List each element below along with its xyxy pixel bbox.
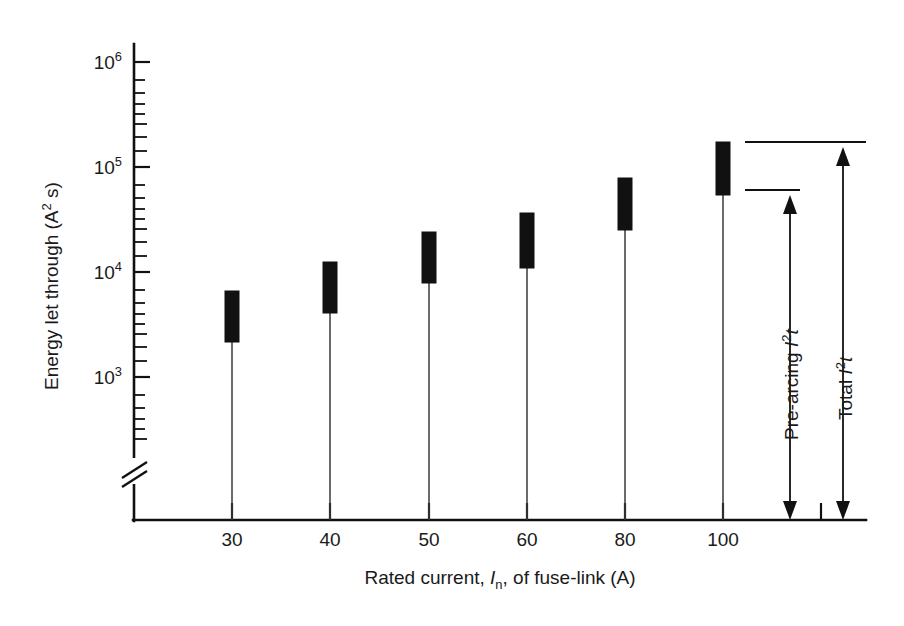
- y-tick-label-1e5: 105: [78, 158, 122, 177]
- annotation-total-superscript: 2: [833, 362, 848, 369]
- x-tick-label-60: 60: [516, 530, 537, 549]
- x-tick-label-80: 80: [614, 530, 635, 549]
- arrow-total: [836, 147, 850, 520]
- bar-band: [520, 213, 534, 268]
- bar-40: [323, 262, 337, 520]
- chart-figure: 106 105 104 103 30 40 50 60 80 100 Energ…: [0, 0, 904, 626]
- bar-100: [716, 142, 730, 520]
- y-tick-exponent: 6: [115, 49, 122, 64]
- y-tick-label-1e3: 103: [78, 368, 122, 387]
- annotation-label-total: Total I2t: [836, 357, 855, 420]
- axes-group: [133, 44, 866, 521]
- annotation-pre-arcing-prefix: Pre-arcing: [781, 347, 802, 440]
- annotation-group: [745, 142, 866, 520]
- bar-30: [225, 291, 239, 520]
- bar-band: [618, 178, 632, 230]
- x-tick-label-40: 40: [319, 530, 340, 549]
- y-axis-title: Energy let through (A2 s): [42, 182, 61, 390]
- y-axis-title-prefix: Energy let through (A: [41, 210, 62, 390]
- annotation-pre-arcing-suffix: t: [781, 329, 802, 334]
- x-axis-title: Rated current, In, of fuse-link (A): [364, 568, 635, 587]
- y-axis-ticks: [134, 62, 150, 439]
- chart-plot-area: [0, 0, 904, 626]
- annotation-pre-arcing-symbol: I: [781, 342, 802, 347]
- y-tick-label-1e6: 106: [78, 53, 122, 72]
- bar-band: [422, 232, 436, 283]
- data-series-group: [225, 142, 730, 520]
- bar-band: [716, 142, 730, 195]
- annotation-pre-arcing-superscript: 2: [779, 335, 794, 342]
- y-tick-exponent: 4: [115, 259, 122, 274]
- bar-80: [618, 178, 632, 520]
- x-tick-label-100: 100: [707, 530, 739, 549]
- x-axis-title-suffix: , of fuse-link (A): [503, 567, 636, 588]
- annotation-total-prefix: Total: [835, 375, 856, 420]
- y-axis-break-icon: [122, 458, 147, 487]
- annotation-total-symbol: I: [835, 369, 856, 374]
- bar-50: [422, 232, 436, 520]
- bar-band: [323, 262, 337, 313]
- bar-band: [225, 291, 239, 342]
- x-tick-label-50: 50: [418, 530, 439, 549]
- annotation-total-suffix: t: [835, 357, 856, 362]
- y-tick-label-1e4: 104: [78, 263, 122, 282]
- y-tick-exponent: 5: [115, 154, 122, 169]
- x-tick-label-30: 30: [221, 530, 242, 549]
- y-axis-title-suffix: s): [41, 182, 62, 203]
- x-axis-title-prefix: Rated current,: [364, 567, 490, 588]
- y-axis-title-superscript: 2: [39, 203, 54, 210]
- y-tick-exponent: 3: [115, 364, 122, 379]
- annotation-label-pre-arcing: Pre-arcing I2t: [782, 329, 801, 440]
- bar-60: [520, 213, 534, 520]
